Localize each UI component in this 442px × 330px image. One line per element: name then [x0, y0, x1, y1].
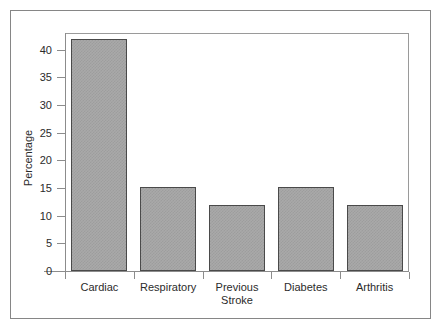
y-axis-tick-label: 0 — [22, 266, 52, 277]
x-axis-tick — [203, 272, 204, 279]
y-axis-tick — [57, 188, 65, 189]
x-axis-tick — [340, 272, 341, 279]
y-axis-tick — [57, 133, 65, 134]
x-axis-category-label: Diabetes — [271, 281, 340, 294]
x-axis-label-line: Cardiac — [65, 281, 134, 294]
y-axis-tick — [57, 160, 65, 161]
x-axis-tick — [271, 272, 272, 279]
x-axis-category-label: PreviousStroke — [203, 281, 272, 307]
x-axis-category-label: Arthritis — [340, 281, 409, 294]
x-axis-label-line: Arthritis — [340, 281, 409, 294]
y-axis-tick-label: 40 — [22, 44, 52, 55]
y-axis-tick — [57, 77, 65, 78]
bar — [347, 205, 403, 271]
x-axis-line — [44, 271, 409, 272]
y-axis-title: Percentage — [22, 98, 34, 218]
bar — [278, 187, 334, 271]
y-axis-tick — [57, 271, 65, 272]
x-axis-tick — [65, 272, 66, 279]
y-axis-tick — [57, 243, 65, 244]
x-axis-label-line: Previous — [203, 281, 272, 294]
bar — [71, 39, 127, 271]
y-axis-tick-label: 5 — [22, 238, 52, 249]
x-axis-label-line: Stroke — [203, 294, 272, 307]
x-axis-label-line: Diabetes — [271, 281, 340, 294]
x-axis-category-label: Cardiac — [65, 281, 134, 294]
y-axis-tick — [57, 105, 65, 106]
y-axis-tick — [57, 216, 65, 217]
y-axis-line — [65, 33, 66, 272]
y-axis-tick — [57, 50, 65, 51]
chart-figure: 0510152025303540 CardiacRespiratoryPrevi… — [0, 0, 442, 330]
x-axis-label-line: Respiratory — [134, 281, 203, 294]
bar — [140, 187, 196, 271]
bar — [209, 205, 265, 271]
x-axis-category-label: Respiratory — [134, 281, 203, 294]
y-axis-tick-label: 35 — [22, 72, 52, 83]
x-axis-tick — [134, 272, 135, 279]
x-axis-tick — [409, 272, 410, 279]
